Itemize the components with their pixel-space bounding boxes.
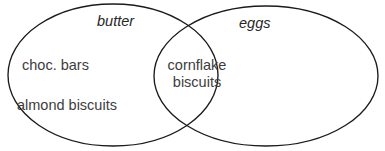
region-item-cornflake-biscuits-line-1: cornflake (151, 57, 243, 74)
set-label-eggs: eggs (239, 15, 270, 32)
set-label-butter: butter (97, 13, 134, 30)
region-item-cornflake-biscuits-line-2: biscuits (151, 74, 243, 91)
region-item-almond-biscuits: almond biscuits (17, 97, 117, 114)
region-item-choc-bars: choc. bars (22, 57, 89, 74)
venn-diagram: butter eggs choc. bars almond biscuits c… (0, 0, 385, 151)
region-item-cornflake-biscuits: cornflake biscuits (151, 57, 243, 91)
